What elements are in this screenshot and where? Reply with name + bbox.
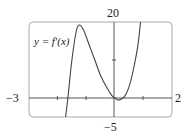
x-min-label: −3: [6, 92, 19, 104]
curve-label: y = f′(x): [34, 36, 69, 47]
y-max-label: 20: [107, 7, 119, 19]
function-curve: [66, 22, 141, 117]
chart-plot: [0, 0, 190, 137]
x-max-label: 2: [175, 92, 181, 104]
y-min-label: −5: [104, 121, 117, 133]
